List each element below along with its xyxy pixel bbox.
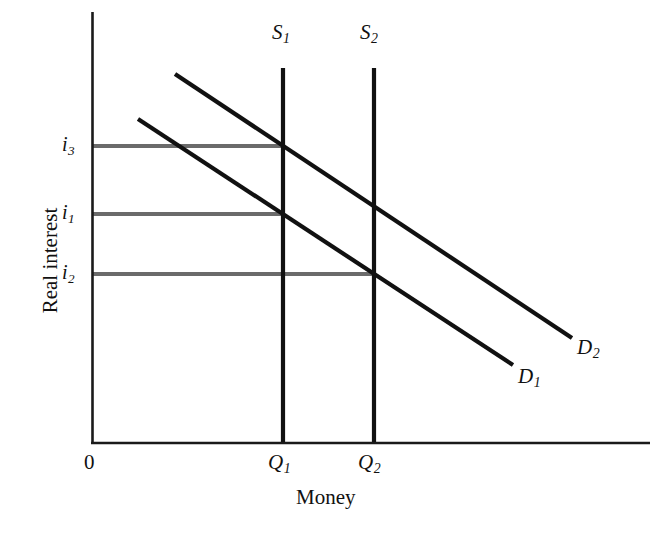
x-tick-label-q1: Q1: [268, 452, 291, 476]
supply-curve-s1-label-base: S: [272, 20, 283, 44]
supply-curves: [283, 68, 374, 443]
y-tick-label-i2-base: i: [62, 261, 68, 283]
supply-curve-s2-label: S2: [360, 22, 378, 46]
y-tick-label-i2-sub: 2: [68, 271, 75, 286]
axes: [91, 12, 650, 444]
x-tick-label-q2-sub: 2: [373, 461, 380, 476]
money-market-diagram: S1 S2 D1 D2 i3 i1 i2 Q1 Q2 0 Money Real …: [0, 0, 667, 535]
supply-curve-s1-label: S1: [272, 22, 290, 46]
diagram-canvas: [0, 0, 667, 535]
y-tick-label-i2: i2: [62, 262, 75, 285]
supply-curve-s2-label-base: S: [360, 20, 371, 44]
demand-curve-d1-label-base: D: [518, 364, 533, 388]
demand-curve-d2-label-base: D: [577, 335, 592, 359]
supply-curve-s1-label-sub: 1: [283, 31, 290, 46]
y-tick-label-i3-base: i: [62, 133, 68, 155]
y-tick-label-i3-sub: 3: [68, 143, 75, 158]
x-tick-label-q2-base: Q: [358, 450, 373, 474]
x-tick-label-q2: Q2: [358, 452, 381, 476]
y-tick-label-i1: i1: [62, 202, 75, 225]
demand-curve-d1-label: D1: [518, 366, 541, 390]
demand-curve-d2-label-sub: 2: [592, 346, 599, 361]
supply-curve-s2-label-sub: 2: [371, 31, 378, 46]
y-axis-title: Real interest: [40, 181, 61, 341]
x-axis-title: Money: [296, 487, 356, 508]
demand-curve-d1-label-sub: 1: [533, 375, 540, 390]
demand-curve-d1: [138, 119, 513, 365]
interest-guide-lines: [92, 146, 374, 274]
origin-label: 0: [84, 452, 95, 473]
y-tick-label-i3: i3: [62, 134, 75, 157]
demand-curve-d2-label: D2: [577, 337, 600, 361]
demand-curves: [138, 74, 572, 365]
x-tick-label-q1-base: Q: [268, 450, 283, 474]
x-tick-label-q1-sub: 1: [283, 461, 290, 476]
y-tick-label-i1-base: i: [62, 201, 68, 223]
y-tick-label-i1-sub: 1: [68, 211, 75, 226]
